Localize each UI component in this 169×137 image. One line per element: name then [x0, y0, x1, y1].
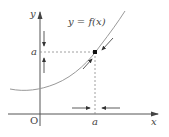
- curve-arrow-down-left-icon: [102, 38, 113, 50]
- fixed-point: [93, 50, 97, 54]
- graph-canvas: y = f(x) y a O a x: [0, 0, 169, 137]
- curve-label: y = f(x): [67, 16, 106, 27]
- x-axis-label: x: [151, 116, 157, 127]
- y-value-label: a: [31, 46, 37, 57]
- diagram: y = f(x) y a O a x: [0, 0, 169, 137]
- x-value-label: a: [92, 116, 98, 127]
- y-axis-label: y: [29, 8, 36, 19]
- origin-label: O: [30, 115, 38, 126]
